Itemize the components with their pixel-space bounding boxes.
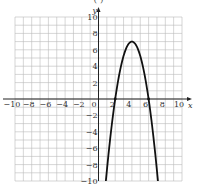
x-tick-label: −4 bbox=[56, 100, 68, 109]
x-tick-label: 8 bbox=[160, 100, 165, 109]
x-tick-label: 4 bbox=[126, 100, 131, 109]
x-intercept-point bbox=[114, 98, 117, 101]
x-axis-label: x bbox=[188, 101, 193, 110]
parabola-chart: xy−10−8−6−4−20246810−10−8−6−4−2246810 bbox=[0, 0, 197, 188]
x-tick-label: 0 bbox=[92, 100, 97, 109]
x-tick-label: 6 bbox=[143, 100, 148, 109]
y-axis-arrow-icon bbox=[97, 7, 101, 12]
y-tick-label: −6 bbox=[86, 144, 98, 153]
y-tick-label: 8 bbox=[92, 29, 97, 38]
x-tick-label: −8 bbox=[23, 100, 35, 109]
y-tick-label: −4 bbox=[86, 128, 98, 137]
y-tick-label: −8 bbox=[86, 161, 98, 170]
x-intercept-point bbox=[147, 98, 150, 101]
y-tick-label: −2 bbox=[86, 111, 98, 120]
y-tick-label: 10 bbox=[87, 13, 97, 22]
y-tick-label: 6 bbox=[92, 46, 97, 55]
y-tick-label: 4 bbox=[92, 62, 97, 71]
x-tick-label: −10 bbox=[4, 100, 21, 109]
x-tick-label: −2 bbox=[73, 100, 85, 109]
y-tick-label: −10 bbox=[81, 177, 98, 186]
x-tick-label: 10 bbox=[174, 100, 184, 109]
y-tick-label: 2 bbox=[92, 79, 97, 88]
x-tick-label: −6 bbox=[40, 100, 52, 109]
